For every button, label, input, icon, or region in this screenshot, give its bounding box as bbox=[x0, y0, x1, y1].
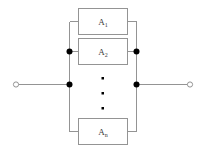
vertical-ellipsis bbox=[102, 77, 105, 110]
circuit-schematic: A1 A2 An bbox=[0, 0, 204, 153]
ellipsis-dot-1 bbox=[102, 77, 105, 80]
junction-left-main-dot bbox=[67, 82, 73, 88]
junction-left-upper-dot bbox=[67, 49, 73, 55]
block-2-subscript: 2 bbox=[105, 52, 108, 58]
terminal-right-icon bbox=[187, 82, 192, 87]
terminal-left-icon bbox=[13, 82, 18, 87]
ellipsis-dot-3 bbox=[102, 107, 105, 110]
parallel-circuit-diagram: A1 A2 An bbox=[0, 0, 204, 153]
ellipsis-dot-2 bbox=[102, 92, 105, 95]
block-1-subscript: 1 bbox=[105, 22, 108, 28]
junction-right-main-dot bbox=[134, 82, 140, 88]
junction-right-upper-dot bbox=[134, 49, 140, 55]
block-n-subscript: n bbox=[105, 132, 108, 138]
